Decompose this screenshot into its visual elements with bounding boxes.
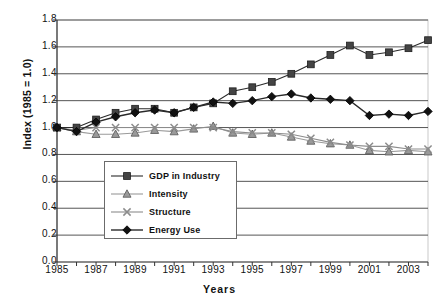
- marker-square: [124, 173, 131, 180]
- marker-square: [425, 37, 432, 44]
- legend-label: Intensity: [149, 189, 188, 199]
- marker-square: [307, 61, 314, 68]
- legend-item: Intensity: [105, 185, 236, 203]
- legend-marker-triangle-icon: [105, 185, 149, 203]
- marker-square: [346, 42, 353, 49]
- legend-marker-square-icon: [105, 167, 149, 185]
- chart-figure: Index (1985 = 1.0) Years 0.00.20.40.60.8…: [0, 0, 439, 305]
- legend-item: Energy Use: [105, 221, 236, 239]
- plot-area: [0, 0, 439, 305]
- legend-marker-x-icon: [105, 203, 149, 221]
- marker-square: [386, 49, 393, 56]
- marker-square: [405, 45, 412, 52]
- legend-marker-diamond-icon: [105, 221, 149, 239]
- legend-label: Structure: [149, 207, 191, 217]
- marker-square: [229, 88, 236, 95]
- chart-legend: GDP in IndustryIntensityStructureEnergy …: [104, 161, 237, 239]
- marker-square: [268, 78, 275, 85]
- legend-item: Structure: [105, 203, 236, 221]
- marker-square: [327, 52, 334, 59]
- legend-label: GDP in Industry: [149, 171, 220, 181]
- marker-square: [288, 70, 295, 77]
- legend-label: Energy Use: [149, 225, 201, 235]
- marker-diamond: [123, 226, 131, 234]
- marker-square: [249, 84, 256, 91]
- marker-square: [366, 52, 373, 59]
- legend-item: GDP in Industry: [105, 167, 236, 185]
